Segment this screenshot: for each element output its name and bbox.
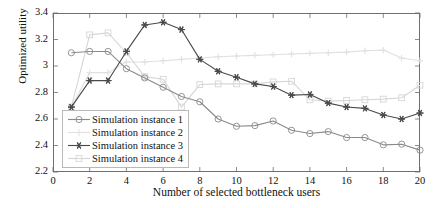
series-4: [68, 30, 422, 110]
y-tick-3.4: 3.4: [8, 6, 48, 17]
legend-label-3: Simulation instance 3: [92, 139, 183, 152]
x-tick-4: 4: [111, 175, 141, 186]
x-tick-16: 16: [332, 175, 362, 186]
x-tick-18: 18: [368, 175, 398, 186]
legend-item-1[interactable]: Simulation instance 1: [66, 113, 183, 126]
x-tick-0: 0: [38, 175, 68, 186]
x-tick-14: 14: [295, 175, 325, 186]
x-tick-6: 6: [148, 175, 178, 186]
x-tick-8: 8: [185, 175, 215, 186]
series-3: [68, 19, 423, 122]
x-tick-12: 12: [258, 175, 288, 186]
legend-marker-star-icon: [66, 139, 92, 152]
legend-label-1: Simulation instance 1: [92, 113, 183, 126]
legend-marker-plus-icon: [66, 126, 92, 139]
x-tick-20: 20: [405, 175, 435, 186]
y-tick-2.6: 2.6: [8, 112, 48, 123]
y-tick-2.4: 2.4: [8, 139, 48, 150]
y-tick-3.2: 3.2: [8, 33, 48, 44]
y-tick-3: 3: [8, 59, 48, 70]
legend-item-2[interactable]: Simulation instance 2: [66, 126, 183, 139]
legend-item-3[interactable]: Simulation instance 3: [66, 139, 183, 152]
x-tick-2: 2: [75, 175, 105, 186]
legend-marker-circle-icon: [66, 113, 92, 126]
y-tick-2.8: 2.8: [8, 86, 48, 97]
legend-marker-square-icon: [66, 152, 92, 165]
legend-label-2: Simulation instance 2: [92, 126, 183, 139]
figure: Optimized utility Number of selected bot…: [0, 0, 438, 208]
x-tick-10: 10: [222, 175, 252, 186]
legend-label-4: Simulation instance 4: [92, 152, 183, 165]
series-2: [68, 47, 423, 110]
legend-item-4[interactable]: Simulation instance 4: [66, 152, 183, 165]
chart-legend: Simulation instance 1Simulation instance…: [62, 110, 189, 168]
